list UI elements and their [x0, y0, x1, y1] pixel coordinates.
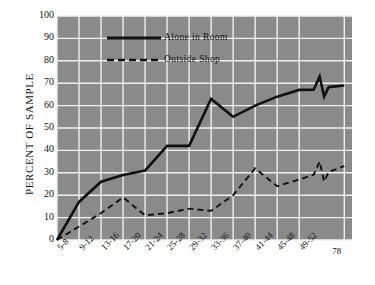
y-tick-label: 70: [26, 77, 54, 87]
y-axis-tick-labels: 0102030405060708090100: [24, 0, 54, 285]
y-tick-label: 30: [26, 167, 54, 177]
y-tick-label: 20: [26, 189, 54, 199]
x-tick-label: 78: [332, 246, 341, 256]
series-line-alone-in-room: [57, 77, 344, 240]
y-tick-label: 80: [26, 55, 54, 65]
chart-figure: PERCENT OF SAMPLE 0102030405060708090100…: [0, 0, 375, 285]
legend-label-outside-shop: Outside Shop: [164, 54, 220, 64]
data-series: [57, 77, 344, 240]
y-tick-label: 0: [26, 234, 54, 244]
y-tick-label: 90: [26, 32, 54, 42]
y-tick-label: 50: [26, 122, 54, 132]
y-tick-label: 10: [26, 212, 54, 222]
plot-svg: [57, 16, 352, 240]
legend-label-alone-in-room: Alone in Room: [164, 32, 228, 42]
gridlines: [57, 16, 352, 240]
y-tick-label: 40: [26, 144, 54, 154]
legend-swatches: [107, 38, 161, 60]
plot-area: [57, 16, 352, 240]
y-tick-label: 100: [26, 10, 54, 20]
y-tick-label: 60: [26, 100, 54, 110]
